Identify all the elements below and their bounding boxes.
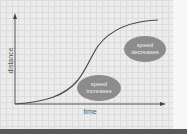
y-axis-label: distance xyxy=(7,41,14,81)
y-axis-arrow-icon xyxy=(13,13,17,19)
speed-decreases-annotation: speed decreases xyxy=(124,36,166,62)
x-axis-label: time xyxy=(78,108,102,115)
annotation-line: increases xyxy=(77,88,121,95)
speed-increases-annotation: speed increases xyxy=(77,75,121,101)
annotation-line: decreases xyxy=(124,49,166,56)
x-axis-arrow-icon xyxy=(160,102,166,106)
bottom-border xyxy=(0,129,187,134)
annotation-line: speed xyxy=(77,81,121,88)
annotation-line: speed xyxy=(124,42,166,49)
